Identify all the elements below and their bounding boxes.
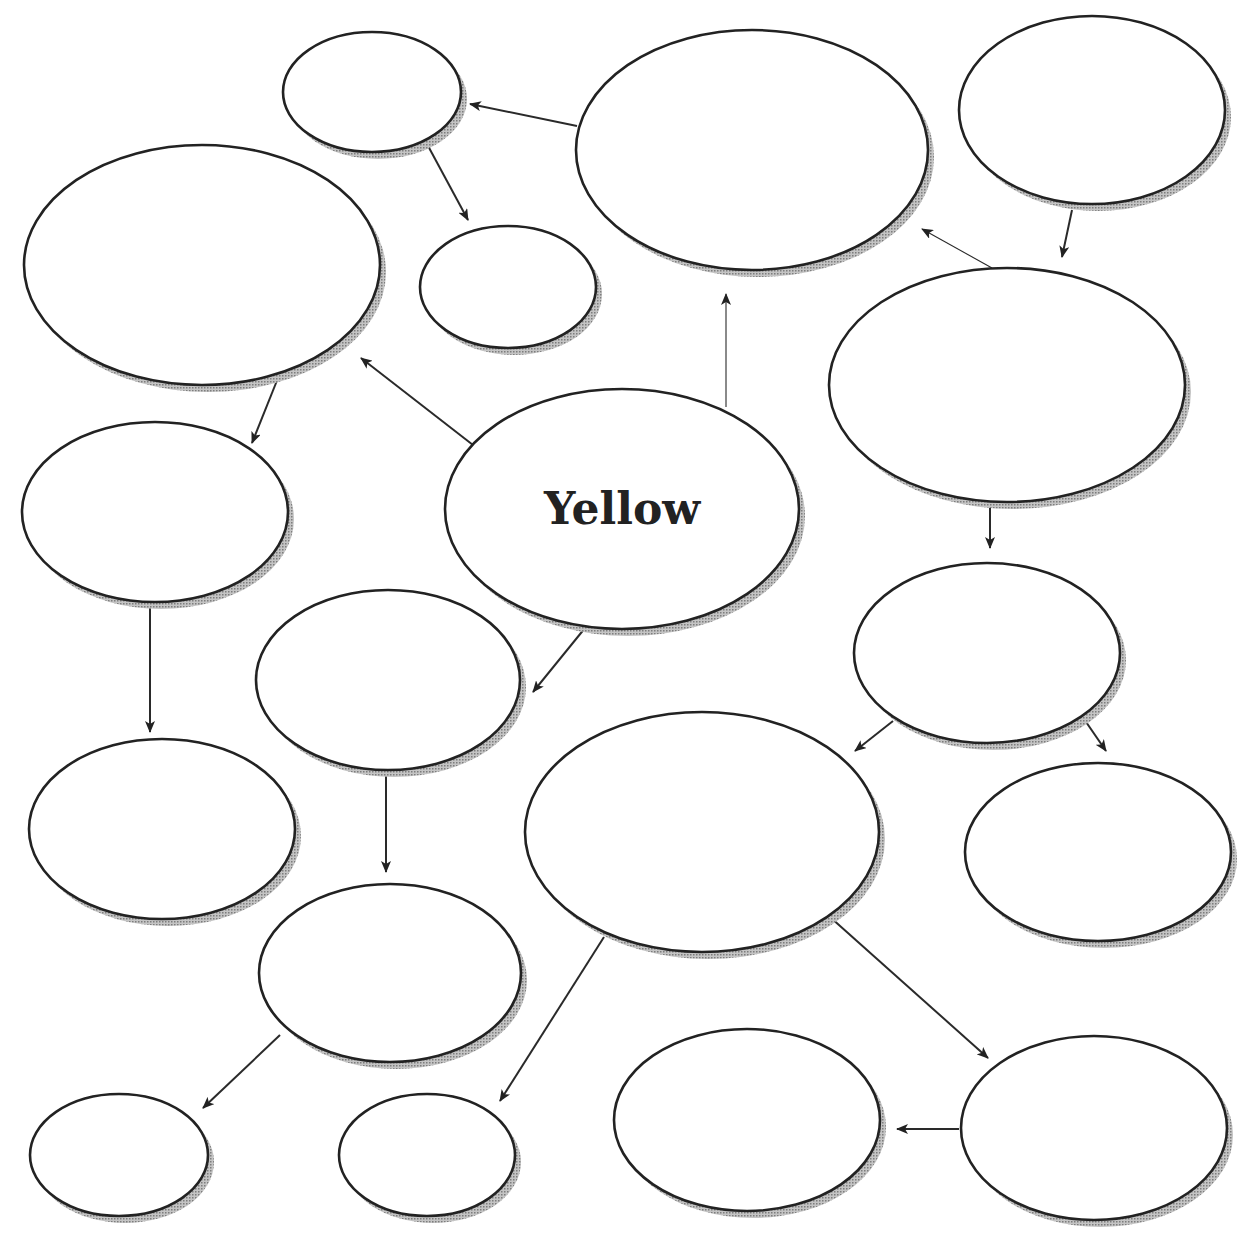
empty-node [829, 268, 1191, 509]
node-ellipse [420, 226, 596, 348]
empty-node [259, 884, 527, 1069]
node-ellipse [829, 268, 1185, 502]
node-ellipse [283, 32, 461, 152]
arrow-n8-to-n12 [1084, 719, 1106, 751]
concept-nodes: Yellow [22, 16, 1237, 1227]
node-ellipse [339, 1094, 515, 1216]
arrow-yellow-to-n9 [533, 628, 585, 692]
node-ellipse [614, 1029, 880, 1211]
arrow-n6-to-n2 [922, 229, 992, 268]
center-node-label: Yellow [543, 483, 701, 534]
arrow-n1-to-n5 [427, 144, 468, 220]
empty-node [22, 422, 294, 609]
center-node: Yellow [445, 389, 805, 636]
node-ellipse [576, 30, 928, 270]
node-ellipse [854, 563, 1120, 743]
node-ellipse [29, 739, 295, 919]
empty-node [854, 563, 1126, 750]
empty-node [965, 763, 1237, 948]
empty-node [256, 590, 526, 777]
node-ellipse [525, 712, 879, 952]
node-ellipse [259, 884, 521, 1062]
node-ellipse [965, 763, 1231, 941]
node-ellipse [256, 590, 520, 770]
empty-node [283, 32, 467, 159]
arrow-n4-to-n7 [252, 378, 278, 443]
empty-node [420, 226, 602, 355]
empty-node [614, 1029, 886, 1218]
arrow-n8-to-n11 [855, 721, 893, 751]
node-ellipse [24, 145, 380, 385]
node-ellipse [30, 1094, 208, 1216]
empty-node [525, 712, 885, 959]
empty-node [24, 145, 386, 392]
empty-node [339, 1094, 521, 1223]
arrow-n3-to-n6 [1062, 210, 1072, 257]
concept-map: Yellow [0, 0, 1257, 1249]
arrow-n11-to-n17 [830, 917, 988, 1058]
empty-node [576, 30, 934, 277]
arrow-yellow-to-n4 [361, 358, 473, 445]
node-ellipse [961, 1036, 1227, 1220]
node-ellipse [959, 16, 1225, 204]
empty-node [29, 739, 301, 926]
empty-node [959, 16, 1231, 211]
empty-node [30, 1094, 214, 1223]
node-ellipse [22, 422, 288, 602]
empty-node [961, 1036, 1233, 1227]
arrow-n2-to-n1 [470, 104, 577, 126]
arrow-n13-to-n14 [203, 1035, 280, 1108]
